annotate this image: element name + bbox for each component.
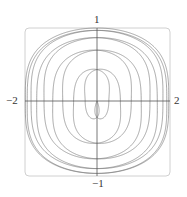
y-max-tick-label: 1	[94, 14, 100, 25]
x-min-tick-label: −2	[6, 95, 18, 106]
x-max-tick-label: 2	[174, 95, 180, 106]
y-min-tick-label: −1	[92, 178, 104, 189]
plot-area	[0, 0, 187, 197]
